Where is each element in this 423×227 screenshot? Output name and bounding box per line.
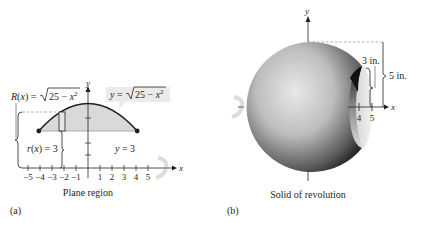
rotation-arrow-icon — [232, 97, 242, 117]
svg-text:R(x) =: R(x) = — [10, 91, 37, 103]
y-axis-label: y — [85, 78, 90, 88]
svg-text:−2: −2 — [59, 172, 69, 182]
representative-rectangle — [59, 112, 65, 131]
panel-a-caption: Plane region — [63, 187, 113, 198]
x-axis-label: x — [178, 163, 183, 173]
svg-text:25 − x2: 25 − x2 — [135, 88, 164, 100]
y-axis-arrow — [306, 16, 311, 22]
dimension-5in-bracket — [383, 42, 386, 107]
x-tick-label-5: 5 — [370, 113, 375, 123]
panel-a-label: (a) — [10, 205, 21, 217]
x-tick-label-4: 4 — [357, 113, 362, 123]
curve-label: y = 25 − x2 — [109, 87, 166, 100]
x-axis-arrow — [384, 105, 389, 110]
outer-radius-label: R(x) = 25 − x2 — [10, 88, 80, 103]
svg-text:2: 2 — [110, 172, 115, 182]
svg-text:1: 1 — [98, 172, 103, 182]
inner-radius-label: r(x) = 3 — [27, 143, 58, 155]
endpoint-right — [135, 129, 140, 134]
panel-b-caption: Solid of revolution — [270, 189, 346, 200]
endpoint-left — [36, 129, 41, 134]
svg-text:25 − x2: 25 − x2 — [49, 90, 78, 102]
x-axis-label: x — [390, 102, 395, 112]
x-tick-labels: −5 −4 −3 −2 −1 1 2 3 4 5 — [23, 172, 151, 182]
panel-a-plane-region: −5 −4 −3 −2 −1 1 2 3 4 5 x y R(x) = 25 −… — [10, 78, 183, 217]
svg-text:3: 3 — [122, 172, 127, 182]
curve-label-pointer — [118, 102, 126, 110]
svg-text:−3: −3 — [47, 172, 57, 182]
panel-b-label: (b) — [227, 205, 239, 217]
dimension-5in-label: 5 in. — [389, 70, 407, 81]
x-axis-arrow — [172, 166, 177, 171]
line-label: y = 3 — [114, 143, 135, 154]
svg-text:5: 5 — [146, 172, 151, 182]
svg-text:4: 4 — [134, 172, 139, 182]
svg-text:−1: −1 — [71, 172, 81, 182]
svg-text:−4: −4 — [35, 172, 45, 182]
sphere-body — [247, 42, 362, 172]
svg-text:−5: −5 — [23, 172, 33, 182]
figure-canvas: −5 −4 −3 −2 −1 1 2 3 4 5 x y R(x) = 25 −… — [0, 0, 423, 227]
y-axis-label: y — [304, 6, 309, 16]
brace-inner-radius — [60, 131, 64, 168]
svg-text:y =: y = — [109, 89, 123, 100]
dimension-3in-label: 3 in. — [362, 55, 380, 66]
panel-b-solid: y x 4 5 5 in. 3 in. Solid of revolut — [227, 6, 407, 217]
